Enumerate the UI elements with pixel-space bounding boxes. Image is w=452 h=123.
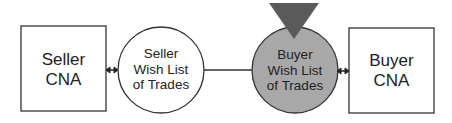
buyer-wishlist-label: Buyer Wish List of Trades [252,47,338,94]
seller-cna-label: Seller CNA [21,50,106,89]
buyer-cna-label: Buyer CNA [349,51,434,90]
double-arrow-icon [106,67,118,73]
double-arrow-icon [337,68,349,74]
seller-wishlist-label: Seller Wish List of Trades [118,46,204,93]
